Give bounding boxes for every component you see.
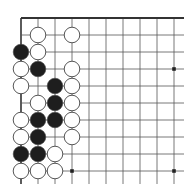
white-stone-icon[interactable] xyxy=(13,129,29,145)
star-point-icon xyxy=(172,67,176,71)
white-stone-icon[interactable] xyxy=(64,112,80,128)
white-stone-icon[interactable] xyxy=(30,27,46,43)
white-stone-icon[interactable] xyxy=(64,61,80,77)
white-stone-icon[interactable] xyxy=(13,78,29,94)
white-stone-icon[interactable] xyxy=(64,129,80,145)
white-stone-icon[interactable] xyxy=(30,163,46,179)
black-stone-icon[interactable] xyxy=(47,95,63,111)
white-stone-icon[interactable] xyxy=(13,112,29,128)
star-point-icon xyxy=(70,169,74,173)
black-stone-icon[interactable] xyxy=(30,112,46,128)
black-stone-icon[interactable] xyxy=(30,61,46,77)
black-stone-icon[interactable] xyxy=(13,44,29,60)
white-stone-icon[interactable] xyxy=(47,146,63,162)
white-stone-icon[interactable] xyxy=(13,61,29,77)
white-stone-icon[interactable] xyxy=(30,44,46,60)
black-stone-icon[interactable] xyxy=(47,112,63,128)
black-stone-icon[interactable] xyxy=(13,146,29,162)
black-stone-icon[interactable] xyxy=(30,129,46,145)
black-stone-icon[interactable] xyxy=(30,146,46,162)
white-stone-icon[interactable] xyxy=(13,163,29,179)
white-stone-icon[interactable] xyxy=(30,95,46,111)
white-stone-icon[interactable] xyxy=(64,78,80,94)
black-stone-icon[interactable] xyxy=(47,78,63,94)
go-board xyxy=(0,0,194,196)
white-stone-icon[interactable] xyxy=(64,27,80,43)
white-stone-icon[interactable] xyxy=(64,95,80,111)
white-stone-icon[interactable] xyxy=(47,163,63,179)
star-point-icon xyxy=(172,169,176,173)
